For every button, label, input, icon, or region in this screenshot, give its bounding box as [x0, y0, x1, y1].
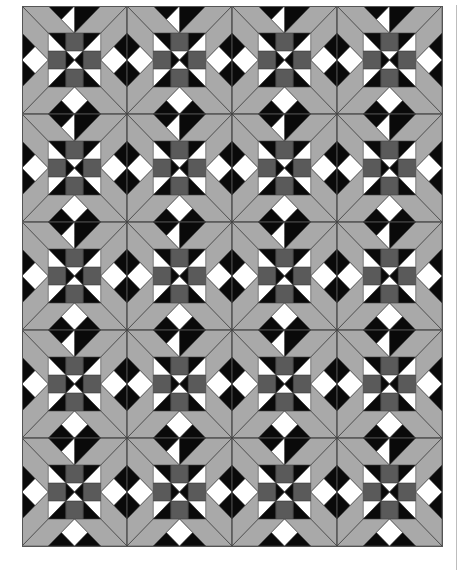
nine-patch-edge-cell	[48, 159, 66, 177]
nine-patch-edge-cell	[381, 393, 399, 411]
nine-patch-edge-cell	[66, 141, 84, 159]
nine-patch-edge-cell	[48, 51, 66, 69]
nine-patch-edge-cell	[48, 375, 66, 393]
quilt-block	[232, 222, 337, 330]
nine-patch-edge-cell	[398, 267, 416, 285]
quilt-block	[127, 114, 232, 222]
nine-patch-edge-cell	[276, 465, 294, 483]
nine-patch-edge-cell	[171, 501, 189, 519]
nine-patch-edge-cell	[153, 483, 171, 501]
nine-patch-edge-cell	[48, 483, 66, 501]
nine-patch-edge-cell	[171, 33, 189, 51]
nine-patch-edge-cell	[293, 51, 311, 69]
nine-patch-edge-cell	[188, 51, 206, 69]
quilt-block	[337, 6, 442, 114]
quilt-block	[127, 6, 232, 114]
nine-patch-edge-cell	[66, 393, 84, 411]
nine-patch-edge-cell	[398, 483, 416, 501]
nine-patch-edge-cell	[258, 51, 276, 69]
nine-patch-edge-cell	[381, 141, 399, 159]
nine-patch-edge-cell	[398, 159, 416, 177]
nine-patch-edge-cell	[258, 483, 276, 501]
nine-patch-edge-cell	[276, 33, 294, 51]
quilt-block	[22, 330, 127, 438]
quilt-block	[337, 222, 442, 330]
nine-patch-edge-cell	[171, 285, 189, 303]
nine-patch-edge-cell	[381, 249, 399, 267]
nine-patch-edge-cell	[66, 501, 84, 519]
nine-patch-edge-cell	[188, 159, 206, 177]
quilt-block	[337, 114, 442, 222]
nine-patch-edge-cell	[153, 375, 171, 393]
quilt-block	[22, 114, 127, 222]
nine-patch-edge-cell	[153, 51, 171, 69]
nine-patch-edge-cell	[153, 267, 171, 285]
quilt-block	[337, 330, 442, 438]
nine-patch-edge-cell	[293, 267, 311, 285]
nine-patch-edge-cell	[363, 483, 381, 501]
nine-patch-edge-cell	[381, 285, 399, 303]
nine-patch-edge-cell	[83, 483, 101, 501]
nine-patch-edge-cell	[276, 141, 294, 159]
quilt-block	[127, 222, 232, 330]
nine-patch-edge-cell	[381, 501, 399, 519]
nine-patch-edge-cell	[381, 177, 399, 195]
quilt-block	[127, 330, 232, 438]
nine-patch-edge-cell	[171, 249, 189, 267]
nine-patch-edge-cell	[276, 357, 294, 375]
quilt-block	[232, 330, 337, 438]
nine-patch-edge-cell	[171, 393, 189, 411]
nine-patch-edge-cell	[398, 375, 416, 393]
nine-patch-edge-cell	[258, 375, 276, 393]
quilt-block	[232, 114, 337, 222]
nine-patch-edge-cell	[398, 51, 416, 69]
nine-patch-edge-cell	[381, 69, 399, 87]
nine-patch-edge-cell	[258, 267, 276, 285]
nine-patch-edge-cell	[258, 159, 276, 177]
nine-patch-edge-cell	[48, 267, 66, 285]
nine-patch-edge-cell	[171, 177, 189, 195]
nine-patch-edge-cell	[363, 159, 381, 177]
quilt-block	[22, 6, 127, 114]
quilt-block	[232, 438, 337, 546]
nine-patch-edge-cell	[381, 465, 399, 483]
page-edge-rule	[456, 5, 457, 570]
nine-patch-edge-cell	[293, 483, 311, 501]
nine-patch-edge-cell	[276, 177, 294, 195]
nine-patch-edge-cell	[381, 33, 399, 51]
nine-patch-edge-cell	[66, 465, 84, 483]
nine-patch-edge-cell	[276, 285, 294, 303]
nine-patch-edge-cell	[171, 465, 189, 483]
nine-patch-edge-cell	[188, 267, 206, 285]
nine-patch-edge-cell	[66, 357, 84, 375]
nine-patch-edge-cell	[153, 159, 171, 177]
nine-patch-edge-cell	[83, 159, 101, 177]
nine-patch-edge-cell	[363, 375, 381, 393]
nine-patch-edge-cell	[66, 33, 84, 51]
nine-patch-edge-cell	[276, 501, 294, 519]
nine-patch-edge-cell	[188, 375, 206, 393]
quilt-block	[127, 438, 232, 546]
quilt-block	[22, 222, 127, 330]
quilt-block	[232, 6, 337, 114]
nine-patch-edge-cell	[171, 141, 189, 159]
quilt-block	[22, 438, 127, 546]
nine-patch-edge-cell	[276, 69, 294, 87]
nine-patch-edge-cell	[171, 69, 189, 87]
nine-patch-edge-cell	[66, 249, 84, 267]
quilt-pattern	[22, 6, 443, 547]
nine-patch-edge-cell	[363, 51, 381, 69]
quilt-canvas	[22, 6, 443, 547]
nine-patch-edge-cell	[293, 375, 311, 393]
nine-patch-edge-cell	[83, 51, 101, 69]
nine-patch-edge-cell	[381, 357, 399, 375]
nine-patch-edge-cell	[83, 375, 101, 393]
nine-patch-edge-cell	[66, 69, 84, 87]
nine-patch-edge-cell	[66, 285, 84, 303]
nine-patch-edge-cell	[276, 393, 294, 411]
nine-patch-edge-cell	[188, 483, 206, 501]
nine-patch-edge-cell	[363, 267, 381, 285]
nine-patch-edge-cell	[293, 159, 311, 177]
nine-patch-edge-cell	[171, 357, 189, 375]
quilt-block	[337, 438, 442, 546]
